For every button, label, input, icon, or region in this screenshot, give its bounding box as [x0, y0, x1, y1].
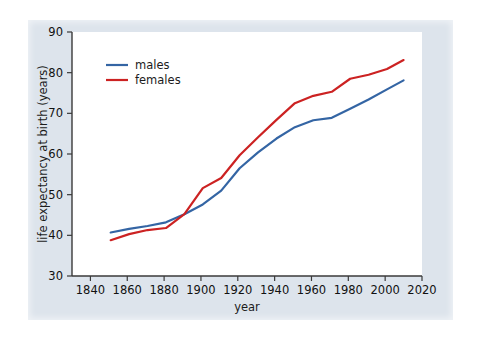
y-tick-label: 90 — [48, 25, 63, 39]
y-tick-label: 60 — [48, 147, 63, 161]
x-tick-label: 1860 — [113, 283, 142, 297]
life-expectancy-line-chart: 30405060708090 1840186018801900192019401… — [0, 0, 477, 344]
y-tick-label: 40 — [48, 228, 63, 242]
x-tick-label: 1920 — [223, 283, 252, 297]
y-tick-label: 80 — [48, 66, 63, 80]
legend-label-females: females — [135, 73, 181, 87]
chart-screenshot: 30405060708090 1840186018801900192019401… — [0, 0, 477, 344]
plot-area-background — [72, 32, 422, 276]
x-tick-label: 1900 — [186, 283, 215, 297]
x-tick-label: 1880 — [149, 283, 178, 297]
legend-label-males: males — [135, 58, 170, 72]
y-tick-label: 70 — [48, 106, 63, 120]
plot-frame: 30405060708090 1840186018801900192019401… — [0, 0, 477, 344]
y-axis-ticks: 30405060708090 — [48, 25, 72, 283]
x-tick-label: 1980 — [334, 283, 363, 297]
y-tick-label: 50 — [48, 188, 63, 202]
y-tick-label: 30 — [48, 269, 63, 283]
x-tick-label: 1940 — [260, 283, 289, 297]
x-tick-label: 2000 — [371, 283, 400, 297]
x-axis-title: year — [234, 300, 260, 314]
x-axis-ticks: 1840186018801900192019401960198020002020 — [76, 276, 437, 297]
y-axis-title: life expectancy at birth (years) — [36, 65, 50, 243]
x-tick-label: 1960 — [297, 283, 326, 297]
x-tick-label: 2020 — [407, 283, 436, 297]
x-tick-label: 1840 — [76, 283, 105, 297]
